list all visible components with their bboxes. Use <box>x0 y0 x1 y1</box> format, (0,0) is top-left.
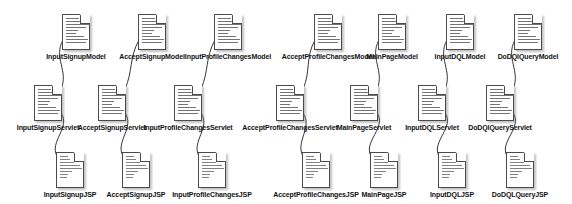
document-text-line <box>60 159 70 160</box>
document-text-line <box>38 104 48 105</box>
document-text-line <box>450 30 462 31</box>
document-text-line <box>202 174 210 175</box>
document-text-lines <box>126 156 146 184</box>
edge-AcceptSignupServlet-to-AcceptSignupModel <box>125 40 139 89</box>
document-text-line <box>126 171 138 172</box>
document-text-line <box>518 27 538 28</box>
document-text-line <box>60 156 68 157</box>
document-text-line <box>518 42 538 43</box>
document-text-line <box>306 168 328 169</box>
document-icon <box>56 152 84 188</box>
document-text-line <box>102 92 116 93</box>
document-text-line <box>422 101 434 102</box>
node-label: DoDQLQueryJSP <box>492 191 548 198</box>
document-text-line <box>450 18 463 19</box>
document-text-line <box>38 95 62 96</box>
document-text-line <box>442 168 464 169</box>
document-text-lines <box>38 89 58 117</box>
document-text-line <box>38 92 52 93</box>
document-text-line <box>490 101 502 102</box>
document-text-line <box>38 89 51 90</box>
document-icon <box>302 152 330 188</box>
document-text-line <box>66 30 78 31</box>
document-text-line <box>490 104 500 105</box>
document-text-line <box>354 95 378 96</box>
document-text-line <box>490 98 510 99</box>
document-text-line <box>354 98 374 99</box>
document-text-line <box>510 171 522 172</box>
document-text-line <box>510 165 530 166</box>
document-text-line <box>374 171 386 172</box>
document-text-line <box>202 162 216 163</box>
document-text-lines <box>450 18 470 46</box>
document-text-line <box>280 104 290 105</box>
document-text-line <box>510 156 518 157</box>
document-text-line <box>218 18 231 19</box>
document-text-line <box>518 36 536 37</box>
document-text-line <box>102 107 120 108</box>
document-text-line <box>382 21 396 22</box>
document-text-lines <box>142 18 162 46</box>
document-text-line <box>318 39 340 40</box>
document-text-line <box>354 104 364 105</box>
document-text-line <box>66 33 76 34</box>
document-text-line <box>518 39 540 40</box>
document-icon <box>514 14 542 50</box>
document-text-line <box>510 159 520 160</box>
document-text-line <box>218 42 238 43</box>
document-text-line <box>422 89 435 90</box>
document-text-line <box>422 104 432 105</box>
document-text-line <box>374 177 381 178</box>
document-text-line <box>280 101 292 102</box>
document-text-line <box>38 98 58 99</box>
node-label: AcceptProfileChangesServlet <box>242 124 337 131</box>
document-icon <box>314 14 342 50</box>
document-icon <box>370 152 398 188</box>
node-label: AcceptProfileChangesModel <box>282 53 374 60</box>
document-text-line <box>202 168 224 169</box>
document-text-line <box>306 171 318 172</box>
document-text-line <box>422 95 446 96</box>
document-icon <box>506 152 534 188</box>
document-text-line <box>126 159 136 160</box>
document-text-lines <box>202 156 222 184</box>
document-text-line <box>374 174 382 175</box>
document-text-line <box>218 36 236 37</box>
document-icon <box>62 14 90 50</box>
document-text-line <box>126 168 148 169</box>
document-text-line <box>442 174 450 175</box>
document-text-line <box>178 110 200 111</box>
document-text-line <box>66 36 84 37</box>
document-text-line <box>490 92 504 93</box>
document-text-line <box>382 39 404 40</box>
document-text-lines <box>510 156 530 184</box>
document-text-line <box>422 110 444 111</box>
document-text-line <box>66 24 90 25</box>
document-text-line <box>306 159 316 160</box>
document-text-line <box>490 113 510 114</box>
document-text-line <box>280 98 300 99</box>
node-label: InputSignupModel <box>46 53 105 60</box>
document-text-line <box>306 174 314 175</box>
document-text-lines <box>382 18 402 46</box>
document-text-line <box>66 39 88 40</box>
document-text-line <box>218 21 232 22</box>
document-text-line <box>66 18 79 19</box>
document-text-line <box>422 92 436 93</box>
document-text-line <box>442 165 462 166</box>
document-text-lines <box>102 89 122 117</box>
document-text-line <box>218 30 230 31</box>
document-text-line <box>126 165 146 166</box>
node-label: AcceptSignupModel <box>119 53 185 60</box>
node-label: MainPageServlet <box>337 124 392 131</box>
document-text-line <box>142 21 156 22</box>
document-text-line <box>306 165 326 166</box>
document-text-line <box>142 27 162 28</box>
document-text-line <box>142 18 155 19</box>
document-text-line <box>142 24 166 25</box>
node-label: AcceptProfileChangesJSP <box>273 191 359 198</box>
document-text-line <box>318 27 338 28</box>
document-text-line <box>178 101 190 102</box>
document-text-line <box>450 27 470 28</box>
document-text-line <box>518 24 542 25</box>
